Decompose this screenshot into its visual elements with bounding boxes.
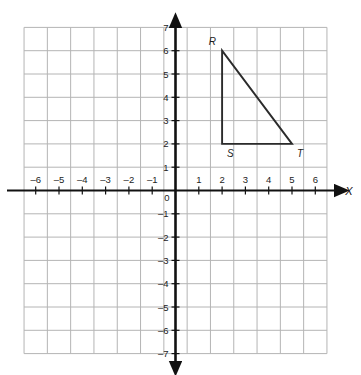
x-tick-label: –5 — [54, 174, 65, 185]
x-tick-label: 2 — [219, 174, 224, 185]
y-tick-label: 3 — [163, 115, 168, 126]
x-tick-label: 4 — [266, 174, 271, 185]
x-tick-label: –4 — [77, 174, 88, 185]
y-tick-label: –2 — [158, 232, 169, 243]
y-tick-label: –6 — [158, 325, 169, 336]
x-tick-label: –2 — [124, 174, 135, 185]
y-axis-name-label: Y — [172, 362, 180, 374]
y-tick-label: –1 — [158, 208, 169, 219]
y-tick-label: –4 — [158, 278, 169, 289]
x-tick-label: 5 — [289, 174, 294, 185]
vertex-label-r: R — [209, 36, 216, 47]
x-axis-name-label: X — [344, 185, 353, 197]
x-tick-label: 6 — [313, 174, 318, 185]
y-tick-label: 7 — [163, 22, 168, 33]
coordinate-plane-svg: –6–5–4–3–2–11234567654321–1–2–3–4–5–6–70… — [0, 0, 361, 375]
y-tick-label: 1 — [163, 162, 168, 173]
x-tick-label: –3 — [100, 174, 111, 185]
y-tick-label: 5 — [163, 69, 168, 80]
vertex-label-t: T — [297, 148, 304, 159]
x-tick-label: –6 — [30, 174, 41, 185]
y-tick-label: 2 — [163, 138, 168, 149]
y-tick-label: 6 — [163, 45, 168, 56]
y-tick-label: –7 — [158, 348, 169, 359]
vertex-label-s: S — [227, 148, 234, 159]
coordinate-plane-figure: –6–5–4–3–2–11234567654321–1–2–3–4–5–6–70… — [0, 0, 361, 375]
y-tick-label: –3 — [158, 255, 169, 266]
x-tick-label: 1 — [196, 174, 201, 185]
x-tick-label: –1 — [147, 174, 158, 185]
x-tick-label: 3 — [243, 174, 248, 185]
origin-label: 0 — [164, 192, 169, 203]
y-tick-label: 4 — [163, 92, 168, 103]
y-tick-label: –5 — [158, 302, 169, 313]
